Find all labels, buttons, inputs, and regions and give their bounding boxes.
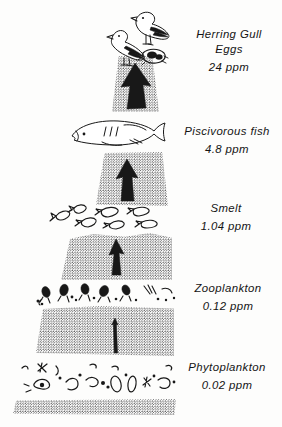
level-value: 24 ppm xyxy=(179,60,279,75)
pyramid-band-phytoplankton xyxy=(13,399,176,415)
arrow-to-zooplankton xyxy=(110,318,120,354)
zooplankton-illustration xyxy=(30,280,180,310)
level-value: 0.02 ppm xyxy=(173,378,281,393)
label-herring-gull-eggs: Herring Gull Eggs 24 ppm xyxy=(179,27,279,75)
level-name: Piscivorous fish xyxy=(173,124,281,139)
phytoplankton-illustration xyxy=(16,356,178,400)
label-zooplankton: Zooplankton 0.12 ppm xyxy=(176,281,280,314)
level-name: Smelt xyxy=(176,201,276,216)
level-value: 1.04 ppm xyxy=(176,219,276,234)
level-value: 0.12 ppm xyxy=(176,299,280,314)
figure-canvas: Herring Gull Eggs 24 ppm Piscivorous fis… xyxy=(0,0,282,427)
label-smelt: Smelt 1.04 ppm xyxy=(176,201,276,234)
label-phytoplankton: Phytoplankton 0.02 ppm xyxy=(173,360,281,393)
herring-gull-illustration xyxy=(98,6,172,84)
level-value: 4.8 ppm xyxy=(173,142,281,157)
level-name: Herring Gull xyxy=(179,27,279,42)
arrow-to-smelt xyxy=(108,238,126,276)
level-name: Zooplankton xyxy=(176,281,280,296)
level-name: Phytoplankton xyxy=(173,360,281,375)
piscivorous-fish-illustration xyxy=(62,112,170,154)
smelt-illustration xyxy=(44,196,168,236)
level-name-line2: Eggs xyxy=(179,42,279,57)
pyramid-band-zooplankton xyxy=(36,306,174,356)
label-piscivorous-fish: Piscivorous fish 4.8 ppm xyxy=(173,124,281,157)
